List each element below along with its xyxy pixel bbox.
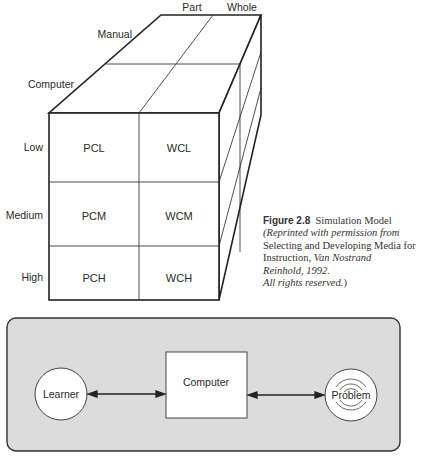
label-part: Part [182,1,201,13]
row-label-high: High [21,271,43,283]
figure-title: Simulation Model [316,215,392,226]
caption-close-paren: ) [343,277,347,288]
caption-line-2: Selecting and Developing Media for [263,240,423,252]
caption-line-3: Instruction, [263,252,314,263]
label-manual: Manual [98,28,132,40]
cube-diagram [49,15,261,300]
cell-wch: WCH [166,272,192,284]
caption-publisher: Van Nostrand [314,252,371,263]
cell-pcm: PCM [82,210,106,222]
row-label-medium: Medium [6,209,44,221]
figure-number: Figure 2.8 [263,215,310,226]
figure-caption: Figure 2.8 Simulation Model (Reprinted w… [263,215,423,289]
row-label-low: Low [24,141,44,153]
learner-label: Learner [43,388,80,400]
cell-pcl: PCL [83,142,104,154]
flow-diagram: Learner Computer Problem [7,318,400,451]
label-computer-depth: Computer [28,78,75,90]
cell-wcl: WCL [167,142,191,154]
cube-front-face [49,113,219,300]
caption-line-5: All rights reserved. [263,277,343,288]
caption-line-4: Reinhold, 1992. [263,265,423,277]
cell-wcm: WCM [165,210,193,222]
computer-label: Computer [183,376,230,388]
caption-line-1: (Reprinted with permission from [263,227,423,239]
cell-pch: PCH [82,272,105,284]
problem-label: Problem [331,389,370,401]
label-whole: Whole [227,1,257,13]
